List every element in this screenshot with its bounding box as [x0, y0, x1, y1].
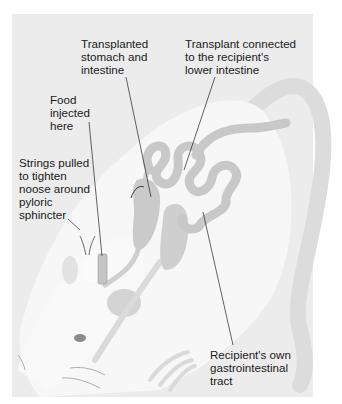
injection-port — [98, 254, 107, 284]
rat-ear-back — [62, 256, 78, 284]
label-transplanted-stomach: Transplanted stomach and intestine — [81, 37, 148, 76]
label-recipient-gi: Recipient's own gastrointestinal tract — [210, 348, 291, 387]
string-sleeve — [84, 252, 98, 282]
label-strings-pulled: Strings pulled to tighten noose around p… — [19, 156, 90, 221]
rat-eye — [74, 334, 86, 342]
label-transplant-connected: Transplant connected to the recipient's … — [185, 37, 296, 76]
label-food-injected: Food injected here — [50, 93, 90, 132]
